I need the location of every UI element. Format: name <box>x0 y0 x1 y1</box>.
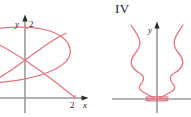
left-x-tick-label: 2 <box>70 100 75 110</box>
right-curve-origin-flat-upper <box>146 97 168 98</box>
right-curve-origin-flat-lower <box>146 100 168 101</box>
right-y-axis-label: y <box>148 25 152 35</box>
left-y-axis-label: y <box>15 19 19 29</box>
parametric-curves-figure <box>0 0 191 117</box>
panel-label-IV: IV <box>115 1 130 17</box>
left-y-tick-label: 2 <box>29 19 34 29</box>
left-x-axis-label: x <box>83 100 87 110</box>
